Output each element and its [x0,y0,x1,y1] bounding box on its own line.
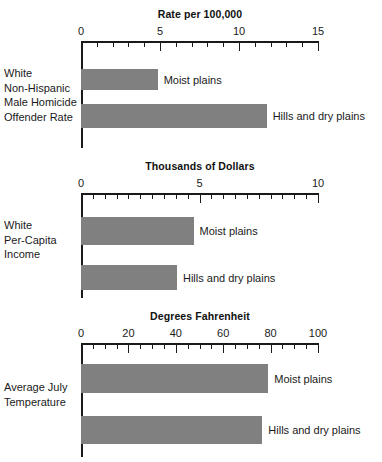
x-axis-major-tick [271,344,272,353]
x-axis-minor-tick [271,194,272,199]
x-axis-major-tick [239,42,240,51]
x-axis-tick-label: 100 [309,327,327,339]
x-axis-major-tick [81,194,82,203]
x-axis-minor-tick [140,194,141,199]
x-axis-minor-tick [235,344,236,349]
x-axis-minor-tick [207,42,208,47]
x-axis-minor-tick [117,344,118,349]
x-axis-major-tick [128,344,129,353]
x-axis-major-tick [176,344,177,353]
x-axis-major-tick [81,344,82,353]
bar [81,69,158,90]
x-axis-major-tick [318,194,319,203]
x-axis-tick-label: 10 [233,25,245,37]
x-axis-tick-label: 10 [312,177,324,189]
x-axis-major-tick [223,344,224,353]
chart-panel-homicide-rate: Rate per 100,000 White Non-Hispanic Male… [0,0,382,152]
x-axis-minor-tick [259,344,260,349]
x-axis-minor-tick [164,194,165,199]
x-axis-tick-label: 0 [78,177,84,189]
x-axis-minor-tick [211,344,212,349]
x-axis-tick-label: 80 [264,327,276,339]
bar [81,416,262,444]
y-axis-line [81,41,83,148]
x-axis-tick-label: 40 [170,327,182,339]
x-axis-minor-tick [255,42,256,47]
plot-area: 051015 Moist plainsHills and dry plains [0,0,382,152]
x-axis-major-tick [160,42,161,51]
x-axis-minor-tick [282,194,283,199]
x-axis-minor-tick [152,344,153,349]
x-axis-tick-label: 5 [157,25,163,37]
x-axis-tick-label: 20 [122,327,134,339]
x-axis-major-tick [318,344,319,353]
x-axis-minor-tick [105,194,106,199]
x-axis-minor-tick [271,42,272,47]
bar-label: Hills and dry plains [268,424,360,436]
x-axis-tick-label: 5 [196,177,202,189]
x-axis-major-tick [81,42,82,51]
chart-figure: Rate per 100,000 White Non-Hispanic Male… [0,0,382,462]
x-axis-major-tick [200,194,201,203]
x-axis-major-tick [318,42,319,51]
x-axis-minor-tick [302,42,303,47]
x-axis-minor-tick [259,194,260,199]
bar-label: Moist plains [200,225,258,237]
x-axis-minor-tick [176,42,177,47]
x-axis-minor-tick [223,194,224,199]
x-axis-minor-tick [192,42,193,47]
x-axis-minor-tick [128,194,129,199]
x-axis-minor-tick [294,344,295,349]
x-axis-minor-tick [176,194,177,199]
bar-label: Hills and dry plains [273,110,365,122]
x-axis-minor-tick [164,344,165,349]
x-axis-minor-tick [247,194,248,199]
x-axis-minor-tick [223,42,224,47]
x-axis-minor-tick [306,194,307,199]
x-axis-minor-tick [188,194,189,199]
bar-label: Moist plains [164,74,222,86]
x-axis-minor-tick [97,42,98,47]
x-axis-line [81,41,319,43]
x-axis-minor-tick [113,42,114,47]
x-axis-tick-label: 0 [78,25,84,37]
x-axis-tick-label: 15 [312,25,324,37]
x-axis-minor-tick [144,42,145,47]
chart-panel-july-temperature: Degrees Fahrenheit Average July Temperat… [0,302,382,462]
x-axis-minor-tick [93,344,94,349]
plot-area: 0510 Moist plainsHills and dry plains [0,152,382,302]
x-axis-minor-tick [140,344,141,349]
bar [81,104,267,128]
chart-panel-per-capita-income: Thousands of Dollars White Per-Capita In… [0,152,382,302]
x-axis-minor-tick [294,194,295,199]
bar [81,364,268,393]
x-axis-minor-tick [247,344,248,349]
x-axis-minor-tick [235,194,236,199]
x-axis-tick-label: 60 [217,327,229,339]
x-axis-minor-tick [286,42,287,47]
x-axis-minor-tick [128,42,129,47]
x-axis-minor-tick [105,344,106,349]
bar [81,265,177,290]
x-axis-tick-label: 0 [78,327,84,339]
x-axis-minor-tick [188,344,189,349]
x-axis-minor-tick [152,194,153,199]
x-axis-minor-tick [200,344,201,349]
x-axis-minor-tick [282,344,283,349]
x-axis-minor-tick [306,344,307,349]
x-axis-minor-tick [93,194,94,199]
x-axis-minor-tick [117,194,118,199]
plot-area: 020406080100 Moist plainsHills and dry p… [0,302,382,462]
x-axis-minor-tick [211,194,212,199]
bar-label: Moist plains [274,373,332,385]
bar [81,217,194,245]
bar-label: Hills and dry plains [183,272,275,284]
